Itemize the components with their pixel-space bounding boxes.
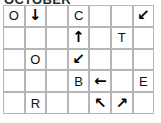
cell-r3c5[interactable] (89, 49, 111, 71)
cell-r4c1[interactable] (3, 70, 25, 92)
cell-r5c6[interactable]: ↗ (111, 92, 133, 114)
cell-r4c5[interactable]: ← (89, 70, 111, 92)
cell-r5c2[interactable]: R (25, 92, 47, 114)
cell-r1c2[interactable]: ↓ (25, 5, 47, 27)
arrow-down-left-icon: ↙ (72, 52, 85, 67)
cell-letter: R (31, 97, 40, 110)
cell-r5c3[interactable] (46, 92, 68, 114)
cell-r2c4[interactable]: ↑ (68, 27, 90, 49)
cell-r3c4[interactable]: ↙ (68, 49, 90, 71)
cell-r1c5[interactable] (89, 5, 111, 27)
cell-r4c6[interactable] (111, 70, 133, 92)
cell-r2c2[interactable] (25, 27, 47, 49)
cell-r2c1[interactable] (3, 27, 25, 49)
cell-r2c3[interactable] (46, 27, 68, 49)
cell-r5c1[interactable] (3, 92, 25, 114)
cell-r3c2[interactable]: O (25, 49, 47, 71)
cell-r5c7[interactable] (133, 92, 155, 114)
cell-letter: O (30, 53, 40, 66)
arrow-up-left-icon: ↖ (94, 96, 107, 111)
cell-r3c6[interactable] (111, 49, 133, 71)
letter-grid: O↓C↙↑TO↙B←ER↖↗ (3, 5, 154, 114)
arrow-down-icon: ↓ (29, 8, 42, 23)
cell-r5c4[interactable] (68, 92, 90, 114)
cell-letter: C (74, 9, 83, 22)
arrow-left-icon: ← (94, 74, 107, 89)
cell-letter: O (9, 9, 19, 22)
cell-letter: T (118, 31, 126, 44)
cell-r3c3[interactable] (46, 49, 68, 71)
cell-r5c5[interactable]: ↖ (89, 92, 111, 114)
cell-r3c7[interactable] (133, 49, 155, 71)
cell-letter: B (74, 75, 83, 88)
puzzle-root: OCTOBER O↓C↙↑TO↙B←ER↖↗ (0, 0, 161, 123)
cell-r2c7[interactable] (133, 27, 155, 49)
cell-r4c2[interactable] (25, 70, 47, 92)
arrow-up-icon: ↑ (72, 30, 85, 45)
cell-r4c7[interactable]: E (133, 70, 155, 92)
cell-r1c6[interactable] (111, 5, 133, 27)
arrow-down-left-icon: ↙ (137, 8, 150, 23)
cell-letter: E (139, 75, 148, 88)
cell-r1c1[interactable]: O (3, 5, 25, 27)
cell-r1c7[interactable]: ↙ (133, 5, 155, 27)
cell-r3c1[interactable] (3, 49, 25, 71)
cell-r1c4[interactable]: C (68, 5, 90, 27)
cell-r4c3[interactable] (46, 70, 68, 92)
cell-r1c3[interactable] (46, 5, 68, 27)
arrow-up-right-icon: ↗ (115, 96, 128, 111)
cell-r2c5[interactable] (89, 27, 111, 49)
cell-r2c6[interactable]: T (111, 27, 133, 49)
cell-r4c4[interactable]: B (68, 70, 90, 92)
